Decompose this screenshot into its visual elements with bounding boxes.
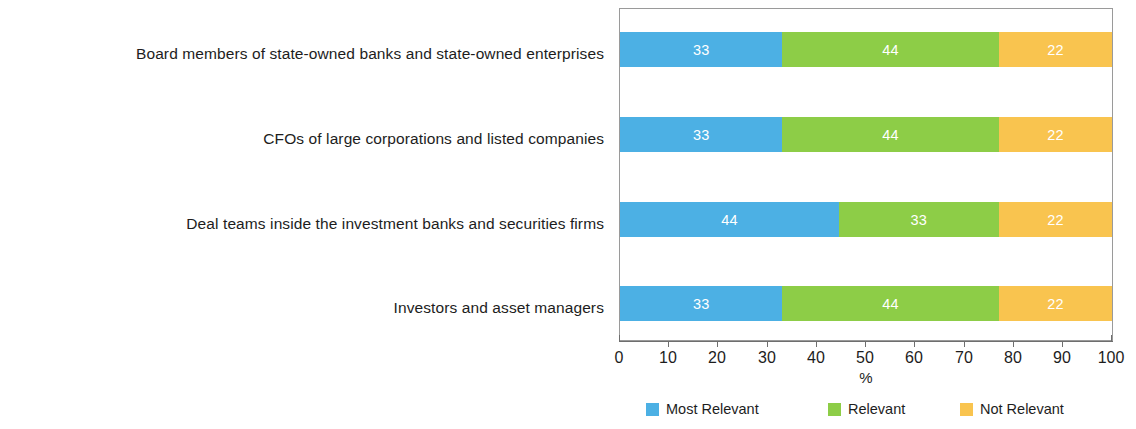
legend: Most Relevant Relevant Not Relevant: [619, 400, 1113, 420]
x-axis-tick: [668, 341, 669, 347]
bar-segment-most-relevant: 33: [620, 286, 782, 321]
x-axis-tick: [1013, 341, 1014, 347]
bar-segment-most-relevant: 44: [620, 202, 839, 237]
x-axis-tick-label-7: 70: [955, 349, 973, 367]
bar-segment-not-relevant: 22: [999, 117, 1112, 152]
legend-swatch-icon: [828, 403, 841, 416]
x-axis-tick-label-9: 90: [1053, 349, 1071, 367]
bar-segment-relevant: 44: [782, 117, 998, 152]
x-axis-tick-label-1: 10: [659, 349, 677, 367]
stacked-bar-chart: Board members of state-owned banks and s…: [0, 0, 1136, 429]
table-row: 33 44 22: [620, 286, 1112, 321]
x-axis-tick: [767, 341, 768, 347]
legend-label: Most Relevant: [666, 401, 759, 417]
bar-segment-relevant: 44: [782, 32, 998, 67]
x-axis-tick: [1062, 341, 1063, 347]
table-row: 33 44 22: [620, 117, 1112, 152]
legend-item-relevant[interactable]: Relevant: [828, 400, 905, 418]
bar-segment-not-relevant: 22: [999, 202, 1112, 237]
legend-swatch-icon: [646, 403, 659, 416]
x-axis-tick-label-5: 50: [856, 349, 874, 367]
bar-segment-most-relevant: 33: [620, 117, 782, 152]
x-axis-tick-label-8: 80: [1004, 349, 1022, 367]
bar-segment-most-relevant: 33: [620, 32, 782, 67]
x-axis-tick: [717, 341, 718, 347]
table-row: 44 33 22: [620, 202, 1112, 237]
x-axis-tick-label-4: 40: [807, 349, 825, 367]
category-label-column: Board members of state-owned banks and s…: [0, 0, 612, 341]
category-label-3: Investors and asset managers: [4, 299, 604, 317]
x-axis-tick: [964, 341, 965, 347]
x-axis-tick: [816, 341, 817, 347]
plot-area: 33 44 22 33 44 22 44 33 22 33 44 22: [619, 8, 1113, 341]
x-axis-tick-label-0: 0: [615, 349, 624, 367]
category-label-0: Board members of state-owned banks and s…: [4, 45, 604, 63]
x-axis-tick: [914, 341, 915, 347]
x-axis-tick-label-3: 30: [758, 349, 776, 367]
category-label-1: CFOs of large corporations and listed co…: [4, 130, 604, 148]
x-axis-title: %: [619, 369, 1113, 386]
x-axis-tick-label-2: 20: [708, 349, 726, 367]
x-axis-tick-label-6: 60: [905, 349, 923, 367]
legend-item-most-relevant[interactable]: Most Relevant: [646, 400, 759, 418]
bar-segment-not-relevant: 22: [999, 286, 1112, 321]
x-axis-tick-start: [619, 335, 620, 341]
x-axis-tick: [865, 341, 866, 347]
x-axis-tick-label-10: 100: [1098, 349, 1125, 367]
legend-swatch-icon: [960, 403, 973, 416]
bar-segment-relevant: 44: [782, 286, 998, 321]
bar-segment-relevant: 33: [839, 202, 999, 237]
bar-segment-not-relevant: 22: [999, 32, 1112, 67]
legend-label: Relevant: [848, 401, 905, 417]
table-row: 33 44 22: [620, 32, 1112, 67]
legend-item-not-relevant[interactable]: Not Relevant: [960, 400, 1064, 418]
category-label-2: Deal teams inside the investment banks a…: [4, 215, 604, 233]
x-axis-tick-end: [1111, 335, 1112, 341]
legend-label: Not Relevant: [980, 401, 1064, 417]
x-axis: 0 10 20 30 40 50 60 70 80 90 100: [619, 341, 1113, 342]
